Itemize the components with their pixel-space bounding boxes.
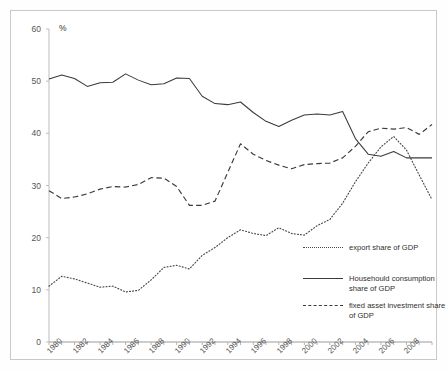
x-tick-1980: 1980 [45, 336, 64, 355]
legend-label-export-share: export share of GDP [349, 243, 448, 253]
y-tick-0: 0 [19, 337, 41, 347]
chart-page: % 60 50 40 30 20 10 0 [0, 0, 448, 371]
legend-label-fixed-asset-investment: fixed asset investment share of GDP [349, 301, 448, 320]
y-tick-10: 10 [19, 285, 41, 295]
clipped-title [0, 0, 448, 7]
y-tick-30: 30 [19, 181, 41, 191]
chart-frame: % 60 50 40 30 20 10 0 [10, 10, 437, 360]
series-line-household-consumption-share [49, 74, 432, 158]
series-line-fixed-asset-investment-share [49, 124, 432, 205]
legend-swatch-dashed-line-icon [303, 305, 343, 307]
legend-swatch-solid-line-icon [303, 278, 343, 280]
legend-swatch-dotted-line-icon [303, 247, 343, 249]
legend-item-fixed-asset-investment[interactable]: fixed asset investment share of GDP [303, 301, 448, 320]
legend-label-household-consumption: Househould consumption share of GDP [349, 274, 448, 293]
y-tick-20: 20 [19, 233, 41, 243]
chart-legend: export share of GDP Househould consumpti… [303, 243, 448, 323]
y-tick-60: 60 [19, 24, 41, 34]
y-tick-40: 40 [19, 128, 41, 138]
y-tick-50: 50 [19, 76, 41, 86]
legend-item-household-consumption[interactable]: Househould consumption share of GDP [303, 274, 448, 293]
legend-spacer [303, 257, 448, 274]
legend-item-export-share[interactable]: export share of GDP [303, 243, 448, 255]
